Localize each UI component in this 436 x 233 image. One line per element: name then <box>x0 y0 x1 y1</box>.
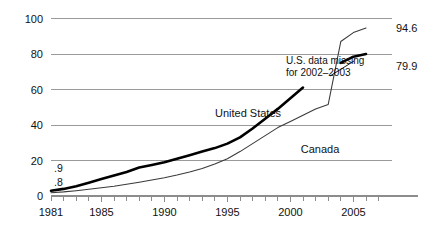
series-inline-labels: United States Canada <box>215 107 340 155</box>
y-tick-label-0: 0 <box>37 190 43 202</box>
series-label-canada: Canada <box>301 143 340 155</box>
series-label-united-states: United States <box>215 107 282 119</box>
x-tick-label-1990: 1990 <box>152 206 176 218</box>
us-data-missing-note: U.S. data missing for 2002–2003 <box>286 55 364 78</box>
x-tick-label-2005: 2005 <box>341 206 365 218</box>
start-value-labels: .9 .8 <box>54 162 63 188</box>
x-tick-label-2000: 2000 <box>278 206 302 218</box>
line-chart-svg: 100 80 60 40 20 0 <box>0 0 436 233</box>
x-tick-label-1981: 1981 <box>39 206 63 218</box>
start-value-label-canada: .8 <box>54 176 63 188</box>
x-axis-tick-labels: 1981 1985 1990 1995 2000 2005 <box>39 206 366 218</box>
gridlines <box>51 19 392 161</box>
y-tick-label-40: 40 <box>31 119 43 131</box>
y-tick-label-20: 20 <box>31 155 43 167</box>
series-line-canada <box>51 28 366 193</box>
y-tick-label-80: 80 <box>31 48 43 60</box>
y-tick-label-100: 100 <box>25 13 43 25</box>
chart-figure: 100 80 60 40 20 0 <box>0 0 436 233</box>
end-value-label-canada: 94.6 <box>396 22 417 34</box>
y-axis-tick-labels: 100 80 60 40 20 0 <box>25 13 43 203</box>
y-tick-label-60: 60 <box>31 84 43 96</box>
end-value-labels: 94.6 79.9 <box>396 22 417 72</box>
x-tick-label-1985: 1985 <box>89 206 113 218</box>
end-value-label-us: 79.9 <box>396 60 417 72</box>
note-line-1: U.S. data missing <box>286 55 364 66</box>
x-axis-minor-ticks <box>51 196 379 202</box>
x-tick-label-1995: 1995 <box>215 206 239 218</box>
start-value-label-us: .9 <box>54 162 63 174</box>
